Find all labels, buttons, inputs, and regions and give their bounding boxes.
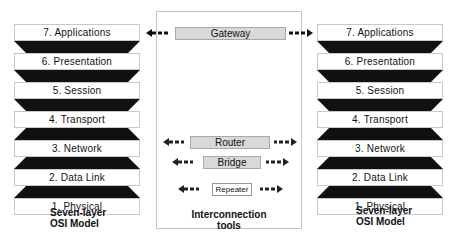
layer-4-transport: 4. Transport <box>14 111 140 128</box>
left-osi-stack: 7. Applications 6. Presentation 5. Sessi… <box>14 24 140 215</box>
layer-3-network: 3. Network <box>14 140 140 157</box>
router-box: Router <box>190 136 270 149</box>
connector-3-2 <box>317 157 443 169</box>
gateway-right-arrow-icon <box>287 29 313 37</box>
connector-7-6 <box>14 41 140 53</box>
router-left-arrow-icon <box>163 138 187 146</box>
repeater-box: Repeater <box>212 183 252 196</box>
caption-line-2: OSI Model <box>356 216 412 227</box>
connector-5-4 <box>317 99 443 111</box>
gateway-left-arrow-icon <box>146 29 172 37</box>
interconnection-tools-panel <box>156 11 302 229</box>
connector-6-5 <box>317 70 443 82</box>
layer-6-presentation: 6. Presentation <box>317 53 443 70</box>
bridge-box: Bridge <box>203 156 261 169</box>
caption-line-2: OSI Model <box>50 218 106 229</box>
connector-5-4 <box>14 99 140 111</box>
connector-6-5 <box>14 70 140 82</box>
repeater-right-arrow-icon <box>259 185 283 193</box>
layer-2-data-link: 2. Data Link <box>317 169 443 186</box>
connector-2-1 <box>317 186 443 198</box>
caption-line-1: Seven-layer <box>50 207 106 218</box>
tools-caption-line-2: tools <box>156 220 302 231</box>
left-stack-caption: Seven-layer OSI Model <box>50 207 106 229</box>
layer-3-network: 3. Network <box>317 140 443 157</box>
layer-4-transport: 4. Transport <box>317 111 443 128</box>
tools-caption: Interconnection tools <box>156 209 302 231</box>
repeater-left-arrow-icon <box>178 185 202 193</box>
right-osi-stack: 7. Applications 6. Presentation 5. Sessi… <box>317 24 443 215</box>
caption-line-1: Seven-layer <box>356 205 412 216</box>
gateway-box: Gateway <box>175 27 286 40</box>
connector-3-2 <box>14 157 140 169</box>
connector-4-3 <box>14 128 140 140</box>
right-stack-caption: Seven-layer OSI Model <box>356 205 412 227</box>
connector-7-6 <box>317 41 443 53</box>
layer-6-presentation: 6. Presentation <box>14 53 140 70</box>
layer-5-session: 5. Session <box>14 82 140 99</box>
connector-4-3 <box>317 128 443 140</box>
router-right-arrow-icon <box>273 138 297 146</box>
layer-7-applications: 7. Applications <box>317 24 443 41</box>
layer-2-data-link: 2. Data Link <box>14 169 140 186</box>
tools-caption-line-1: Interconnection <box>156 209 302 220</box>
connector-2-1 <box>14 186 140 198</box>
layer-5-session: 5. Session <box>317 82 443 99</box>
layer-7-applications: 7. Applications <box>14 24 140 41</box>
bridge-right-arrow-icon <box>265 158 289 166</box>
bridge-left-arrow-icon <box>172 158 196 166</box>
